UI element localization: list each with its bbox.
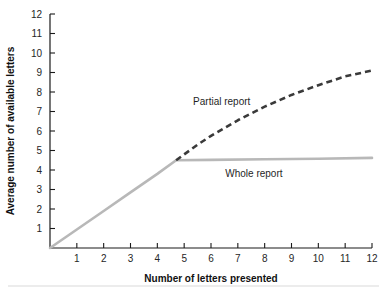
- y-axis-title: Average number of available letters: [5, 46, 16, 215]
- chart-figure: 123456789101112 123456789101112 Partial …: [0, 0, 387, 289]
- x-tick-label: 10: [313, 253, 325, 264]
- x-tick-label: 5: [181, 253, 187, 264]
- y-tick-label: 2: [36, 204, 42, 215]
- x-tick-label: 6: [208, 253, 214, 264]
- chart-background: [0, 0, 387, 289]
- x-tick-label: 2: [101, 253, 107, 264]
- line-chart: 123456789101112 123456789101112 Partial …: [0, 0, 387, 289]
- y-tick-label: 1: [36, 223, 42, 234]
- x-tick-label: 12: [366, 253, 378, 264]
- series-annotation-label: Whole report: [225, 168, 282, 179]
- y-tick-label: 4: [36, 165, 42, 176]
- y-tick-label: 12: [31, 9, 43, 20]
- y-tick-label: 3: [36, 184, 42, 195]
- y-tick-label: 7: [36, 106, 42, 117]
- x-tick-label: 3: [128, 253, 134, 264]
- y-tick-label: 6: [36, 126, 42, 137]
- y-tick-label: 9: [36, 67, 42, 78]
- x-axis-title: Number of letters presented: [144, 273, 277, 284]
- x-tick-label: 4: [155, 253, 161, 264]
- x-tick-label: 8: [262, 253, 268, 264]
- series-annotation-label: Partial report: [193, 96, 250, 107]
- y-tick-label: 11: [32, 28, 43, 39]
- x-tick-label: 9: [289, 253, 295, 264]
- x-tick-label: 7: [235, 253, 241, 264]
- y-tick-label: 10: [31, 48, 43, 59]
- y-tick-label: 5: [36, 145, 42, 156]
- x-tick-label: 1: [74, 253, 80, 264]
- x-tick-label: 11: [340, 253, 351, 264]
- y-tick-label: 8: [36, 87, 42, 98]
